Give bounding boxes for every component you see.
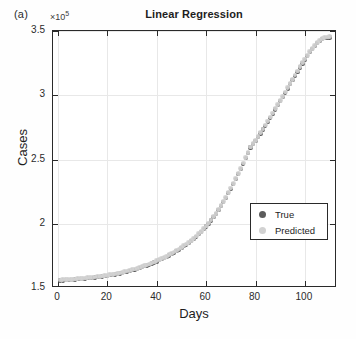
chart-title: Linear Regression <box>52 8 336 20</box>
x-tick-mark-top <box>206 31 207 36</box>
x-tick-mark-top <box>256 31 257 36</box>
x-tick-mark-top <box>107 31 108 36</box>
x-axis-label: Days <box>52 306 336 321</box>
y-tick-label: 1.5 <box>0 281 45 292</box>
y-tick-mark <box>53 95 58 96</box>
x-tick-label: 40 <box>136 291 176 302</box>
y-tick-label: 2 <box>0 217 45 228</box>
gridline-vertical <box>107 31 108 286</box>
gridline-horizontal <box>53 160 335 161</box>
data-point-predicted <box>258 130 263 135</box>
data-point-predicted <box>290 77 295 82</box>
data-point-predicted <box>268 115 273 120</box>
legend-label-true: True <box>275 209 294 220</box>
y-tick-mark-right <box>330 224 335 225</box>
x-tick-mark <box>157 281 158 286</box>
legend-box[interactable]: True Predicted <box>250 203 328 240</box>
data-point-predicted <box>241 161 246 166</box>
figure-canvas: (a) ×105 Linear Regression Cases Days 02… <box>0 0 356 339</box>
x-tick-label: 0 <box>37 291 77 302</box>
x-tick-mark-top <box>58 31 59 36</box>
x-tick-mark-top <box>305 31 306 36</box>
data-point-predicted <box>283 90 288 95</box>
x-tick-label: 100 <box>284 291 324 302</box>
gridline-vertical <box>206 31 207 286</box>
x-tick-label: 80 <box>235 291 275 302</box>
data-point-predicted <box>236 171 241 176</box>
x-tick-mark <box>206 281 207 286</box>
y-tick-mark <box>53 31 58 32</box>
y-tick-mark <box>53 224 58 225</box>
y-tick-mark-right <box>330 95 335 96</box>
legend-marker-true-icon <box>259 211 266 218</box>
data-point-predicted <box>278 98 283 103</box>
y-tick-mark <box>53 160 58 161</box>
gridline-vertical <box>305 31 306 286</box>
y-tick-label: 2.5 <box>0 153 45 164</box>
data-point-predicted <box>223 195 228 200</box>
y-axis-label: Cases <box>15 108 30 188</box>
data-point-predicted <box>233 176 238 181</box>
gridline-vertical <box>58 31 59 286</box>
gridline-horizontal <box>53 95 335 96</box>
legend-item-predicted[interactable]: Predicted <box>251 222 327 238</box>
data-point-predicted <box>263 123 268 128</box>
data-point-predicted <box>226 190 231 195</box>
y-tick-label: 3.5 <box>0 24 45 35</box>
legend-item-true[interactable]: True <box>251 206 327 222</box>
data-point-predicted <box>273 106 278 111</box>
data-point-predicted <box>219 203 224 208</box>
data-point-predicted <box>246 150 251 155</box>
gridline-horizontal <box>53 31 335 32</box>
data-point-predicted <box>280 94 285 99</box>
legend-label-predicted: Predicted <box>275 225 315 236</box>
x-tick-label: 20 <box>86 291 126 302</box>
plot-area <box>52 30 336 287</box>
x-tick-label: 60 <box>185 291 225 302</box>
data-point-predicted <box>295 69 300 74</box>
legend-marker-predicted-icon <box>259 227 266 234</box>
y-tick-mark-right <box>330 160 335 161</box>
gridline-vertical <box>256 31 257 286</box>
gridline-vertical <box>157 31 158 286</box>
data-point-predicted <box>238 166 243 171</box>
y-tick-label: 3 <box>0 88 45 99</box>
data-point-predicted <box>231 181 236 186</box>
x-tick-mark <box>107 281 108 286</box>
panel-label: (a) <box>14 8 28 20</box>
x-tick-mark <box>305 281 306 286</box>
data-point-predicted <box>221 199 226 204</box>
y-tick-mark-right <box>330 31 335 32</box>
x-tick-mark <box>256 281 257 286</box>
data-point-predicted <box>288 81 293 86</box>
x-tick-mark-top <box>157 31 158 36</box>
